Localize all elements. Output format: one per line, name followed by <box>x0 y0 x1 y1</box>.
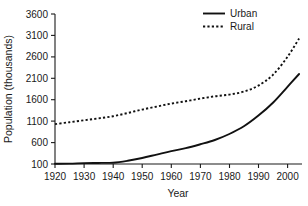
y-tick-label-2600: 2600 <box>26 51 49 62</box>
x-tick-label-1930: 1930 <box>73 171 96 182</box>
chart-canvas: 100 600 1100 1600 2100 2600 3100 3600 19… <box>0 0 308 206</box>
legend-label-rural: Rural <box>230 21 254 32</box>
y-axis-ticks <box>51 14 55 164</box>
y-tick-label-3600: 3600 <box>26 9 49 20</box>
y-tick-label-3100: 3100 <box>26 30 49 41</box>
x-tick-label-1990: 1990 <box>247 171 270 182</box>
legend-label-urban: Urban <box>230 8 257 19</box>
y-tick-label-1100: 1100 <box>26 116 48 127</box>
x-tick-label-2000: 2000 <box>276 171 299 182</box>
x-axis-title: Year <box>167 187 189 199</box>
x-tick-label-1970: 1970 <box>189 171 212 182</box>
x-axis-ticks <box>55 164 288 168</box>
y-tick-label-2100: 2100 <box>26 73 49 84</box>
x-tick-label-1940: 1940 <box>102 171 125 182</box>
y-tick-label-1600: 1600 <box>26 94 49 105</box>
x-tick-label-1920: 1920 <box>44 171 67 182</box>
x-tick-label-1960: 1960 <box>160 171 183 182</box>
y-axis-title: Population (thousands) <box>2 35 14 143</box>
y-tick-label-600: 600 <box>31 137 48 148</box>
population-line-chart: 100 600 1100 1600 2100 2600 3100 3600 19… <box>0 0 308 206</box>
x-tick-label-1950: 1950 <box>131 171 154 182</box>
y-axis-tick-labels: 100 600 1100 1600 2100 2600 3100 3600 <box>26 9 49 170</box>
y-tick-label-100: 100 <box>31 159 48 170</box>
legend: Urban Rural <box>203 8 257 32</box>
x-tick-label-1980: 1980 <box>218 171 241 182</box>
x-axis-tick-labels: 1920 1930 1940 1950 1960 1970 1980 1990 … <box>44 171 299 182</box>
